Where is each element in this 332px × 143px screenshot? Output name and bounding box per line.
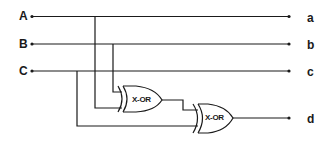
- output-b-terminal: [287, 42, 290, 45]
- input-a-terminal: [30, 15, 33, 18]
- circuit-wires: [0, 0, 332, 143]
- output-label-a: a: [307, 12, 314, 24]
- output-a-terminal: [287, 15, 290, 18]
- wire-a-to-gate1: [95, 17, 122, 109]
- input-label-c: C: [19, 65, 28, 77]
- gate2-label: X-OR: [205, 114, 224, 122]
- output-c-terminal: [287, 69, 290, 72]
- gate1-label: X-OR: [132, 96, 151, 104]
- wire-b-to-gate1: [113, 44, 122, 92]
- wire-gate1-to-gate2: [162, 100, 198, 110]
- input-c-terminal: [30, 69, 33, 72]
- output-d-terminal: [287, 116, 290, 119]
- input-b-terminal: [30, 42, 33, 45]
- input-label-a: A: [19, 10, 28, 22]
- input-label-b: B: [19, 38, 28, 50]
- output-label-c: c: [307, 66, 314, 78]
- circuit-diagram: A B C a b c d X-OR X-OR: [0, 0, 332, 143]
- output-label-d: d: [307, 113, 314, 125]
- output-label-b: b: [307, 39, 314, 51]
